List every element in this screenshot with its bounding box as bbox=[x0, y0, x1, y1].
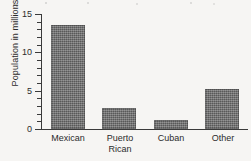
chart-figure: Population in millions 051015 MexicanPue… bbox=[0, 0, 251, 161]
y-axis-minor-tick bbox=[37, 83, 41, 84]
y-axis-tick-label: 10 bbox=[6, 47, 32, 57]
bar-series bbox=[42, 14, 248, 129]
y-axis-minor-tick bbox=[37, 75, 41, 76]
y-axis-minor-tick bbox=[37, 114, 41, 115]
bar-chart-plot-area: Population in millions 051015 MexicanPue… bbox=[0, 0, 251, 161]
y-axis-minor-tick bbox=[37, 37, 41, 38]
bar bbox=[154, 120, 188, 129]
x-axis-category-label: Puerto Rican bbox=[94, 133, 146, 154]
x-axis-category-label: Other bbox=[197, 133, 249, 144]
y-axis-major-tick bbox=[35, 91, 41, 92]
x-axis-category-label: Cuban bbox=[145, 133, 197, 144]
y-axis-minor-tick bbox=[37, 29, 41, 30]
y-axis-minor-tick bbox=[37, 106, 41, 107]
y-axis-major-tick bbox=[35, 14, 41, 15]
y-axis-tick-label: 0 bbox=[6, 124, 32, 134]
y-axis-minor-tick bbox=[37, 60, 41, 61]
y-axis-major-tick bbox=[35, 129, 41, 130]
bar bbox=[205, 89, 239, 129]
x-axis-category-label: Mexican bbox=[42, 133, 94, 144]
bar bbox=[102, 108, 136, 129]
x-axis-line bbox=[41, 129, 248, 130]
y-axis-minor-tick bbox=[37, 121, 41, 122]
y-axis-minor-tick bbox=[37, 45, 41, 46]
y-axis-minor-tick bbox=[37, 98, 41, 99]
y-axis-minor-tick bbox=[37, 22, 41, 23]
y-axis-tick-label: 5 bbox=[6, 86, 32, 96]
y-axis-minor-tick bbox=[37, 68, 41, 69]
y-axis-major-tick bbox=[35, 52, 41, 53]
y-axis-tick-label: 15 bbox=[6, 9, 32, 19]
bar bbox=[51, 25, 85, 129]
